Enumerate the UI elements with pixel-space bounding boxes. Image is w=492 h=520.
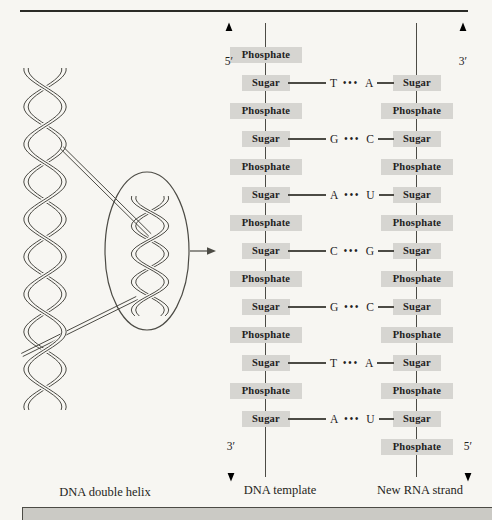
phosphate-box: Phosphate	[381, 103, 453, 119]
arrow-up-icon	[457, 22, 469, 51]
phosphate-box: Phosphate	[381, 439, 453, 455]
top-rule	[20, 10, 468, 12]
rna-base-letter: C	[366, 131, 374, 147]
hydrogen-bond-dots: •••	[344, 187, 360, 203]
bond-line	[379, 418, 394, 419]
hydrogen-bond-dots: •••	[344, 131, 360, 147]
helix-caption: DNA double helix	[59, 485, 151, 500]
phosphate-box: Phosphate	[230, 383, 302, 399]
sugar-box: Sugar	[393, 243, 441, 259]
sugar-box: Sugar	[242, 243, 290, 259]
bond-line	[288, 194, 326, 195]
bond-line	[377, 362, 394, 363]
dna-template-5-prime-end: 5′	[221, 22, 237, 68]
dna-template-3-prime-end: 3′	[223, 440, 239, 486]
sugar-box: Sugar	[393, 131, 441, 147]
bond-line	[378, 138, 394, 139]
bond-line	[379, 194, 394, 195]
sugar-box: Sugar	[242, 411, 290, 427]
dna-double-helix-illustration	[0, 30, 240, 470]
phosphate-box: Phosphate	[381, 383, 453, 399]
base-pair-row: C•••G	[288, 243, 394, 259]
phosphate-box: Phosphate	[381, 327, 453, 343]
dna-base-letter: G	[330, 299, 338, 315]
bond-line	[378, 250, 394, 251]
end-label: 5′	[460, 440, 476, 453]
rna-base-letter: G	[366, 243, 374, 259]
bond-line	[288, 418, 326, 419]
end-label: 3′	[455, 55, 471, 68]
hydrogen-bond-dots: •••	[344, 243, 360, 259]
sugar-box: Sugar	[393, 355, 441, 371]
bond-line	[378, 306, 394, 307]
bond-line	[377, 82, 394, 83]
arrow-up-icon	[223, 22, 235, 51]
strand-break-icon	[254, 465, 277, 476]
pointer-arrow-icon	[190, 247, 216, 255]
next-panel-edge-bar	[22, 507, 492, 520]
phosphate-box: Phosphate	[230, 271, 302, 287]
sugar-box: Sugar	[393, 187, 441, 203]
sugar-box: Sugar	[242, 187, 290, 203]
rna-base-letter: A	[365, 75, 373, 91]
main-helix	[24, 68, 66, 410]
hydrogen-bond-dots: •••	[344, 299, 360, 315]
sugar-box: Sugar	[393, 411, 441, 427]
transcription-figure: 5′ 3′ 3′ 5′ PhosphateSugarPhosphateSugar…	[0, 0, 492, 520]
strand-break-icon	[254, 26, 277, 37]
phosphate-box: Phosphate	[230, 103, 302, 119]
strand-break-icon	[405, 26, 428, 37]
hydrogen-bond-dots: •••	[343, 75, 359, 91]
magnifier-ellipse	[105, 172, 189, 330]
sugar-box: Sugar	[242, 75, 290, 91]
arrow-down-icon	[225, 453, 237, 482]
end-label: 3′	[223, 440, 239, 453]
base-pair-row: A•••U	[288, 411, 394, 427]
rna-base-letter: U	[366, 411, 374, 427]
end-label: 5′	[221, 55, 237, 68]
base-pair-row: A•••U	[288, 187, 394, 203]
phosphate-box: Phosphate	[381, 159, 453, 175]
rna-base-letter: A	[365, 355, 373, 371]
sugar-box: Sugar	[393, 75, 441, 91]
base-pair-row: T•••A	[288, 355, 394, 371]
base-pair-row: G•••C	[288, 299, 394, 315]
bond-line	[288, 250, 326, 251]
rna-strand-5-prime-end: 5′	[460, 440, 476, 486]
rna-base-letter: U	[366, 187, 374, 203]
rna-base-letter: C	[366, 299, 374, 315]
phosphate-box: Phosphate	[381, 215, 453, 231]
sugar-box: Sugar	[393, 299, 441, 315]
strand-break-icon	[405, 465, 428, 476]
hydrogen-bond-dots: •••	[344, 411, 360, 427]
dna-base-letter: A	[330, 187, 338, 203]
phosphate-box: Phosphate	[381, 271, 453, 287]
phosphate-box: Phosphate	[230, 327, 302, 343]
bond-line	[288, 306, 326, 307]
rna-strand-caption: New RNA strand	[377, 483, 463, 498]
phosphate-box: Phosphate	[230, 47, 302, 63]
sugar-box: Sugar	[242, 299, 290, 315]
phosphate-box: Phosphate	[230, 215, 302, 231]
bond-line	[288, 138, 326, 139]
hydrogen-bond-dots: •••	[343, 355, 359, 371]
base-pair-row: T•••A	[288, 75, 394, 91]
dna-base-letter: C	[330, 243, 338, 259]
dna-base-letter: A	[330, 411, 338, 427]
magnified-helix	[131, 196, 168, 316]
dna-base-letter: G	[330, 131, 338, 147]
arrow-down-icon	[462, 453, 474, 482]
bond-line	[288, 82, 326, 83]
dna-base-letter: T	[330, 355, 337, 371]
rna-strand-3-prime-end: 3′	[455, 22, 471, 68]
bond-line	[288, 362, 326, 363]
phosphate-box: Phosphate	[230, 159, 302, 175]
dna-template-caption: DNA template	[244, 483, 317, 498]
sugar-box: Sugar	[242, 355, 290, 371]
dna-base-letter: T	[330, 75, 337, 91]
sugar-box: Sugar	[242, 131, 290, 147]
base-pair-row: G•••C	[288, 131, 394, 147]
